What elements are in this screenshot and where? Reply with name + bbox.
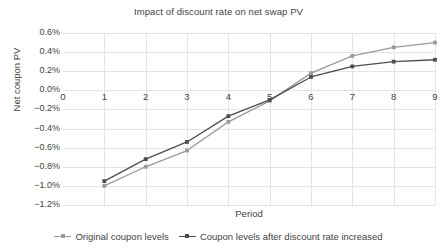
chart-title: Impact of discount rate on net swap PV xyxy=(0,6,437,17)
data-point-marker[interactable] xyxy=(433,58,437,62)
data-point-marker[interactable] xyxy=(185,149,189,153)
gridline-horizontal xyxy=(63,205,435,206)
y-axis-tick-labels: 0.6%0.4%0.2%0.0%−0.2%−0.4%−0.6%−0.8%−1.0… xyxy=(0,33,60,205)
data-point-marker[interactable] xyxy=(226,120,230,124)
y-tick-label: 0.2% xyxy=(0,66,60,75)
legend-item-after-increase[interactable]: Coupon levels after discount rate increa… xyxy=(179,231,383,242)
data-point-marker[interactable] xyxy=(144,165,148,169)
y-tick-label: −0.8% xyxy=(0,162,60,171)
chart-legend: Original coupon levels Coupon levels aft… xyxy=(0,231,437,242)
legend-marker-icon xyxy=(54,233,71,241)
data-point-marker[interactable] xyxy=(102,184,106,188)
data-point-marker[interactable] xyxy=(350,65,354,69)
data-point-marker[interactable] xyxy=(309,71,313,75)
data-point-marker[interactable] xyxy=(185,140,189,144)
y-tick-label: −1.0% xyxy=(0,181,60,190)
x-axis-label: Period xyxy=(60,208,438,219)
data-point-marker[interactable] xyxy=(226,114,230,118)
legend-label: Coupon levels after discount rate increa… xyxy=(200,231,383,242)
data-point-marker[interactable] xyxy=(433,41,437,45)
legend-item-original[interactable]: Original coupon levels xyxy=(54,231,168,242)
series-line xyxy=(104,43,435,186)
legend-label: Original coupon levels xyxy=(75,231,168,242)
data-point-marker[interactable] xyxy=(102,179,106,183)
data-point-marker[interactable] xyxy=(392,60,396,64)
data-point-marker[interactable] xyxy=(392,45,396,49)
y-tick-label: −0.6% xyxy=(0,143,60,152)
data-point-marker[interactable] xyxy=(350,54,354,58)
y-tick-label: −0.2% xyxy=(0,104,60,113)
data-point-marker[interactable] xyxy=(268,98,272,102)
data-point-marker[interactable] xyxy=(144,157,148,161)
y-tick-label: 0.6% xyxy=(0,28,60,37)
legend-marker-icon xyxy=(179,233,196,241)
data-point-marker[interactable] xyxy=(309,75,313,79)
y-tick-label: 0.0% xyxy=(0,85,60,94)
y-tick-label: −0.4% xyxy=(0,124,60,133)
y-tick-label: 0.4% xyxy=(0,47,60,56)
y-tick-label: −1.2% xyxy=(0,200,60,209)
data-series-layer xyxy=(63,33,435,205)
